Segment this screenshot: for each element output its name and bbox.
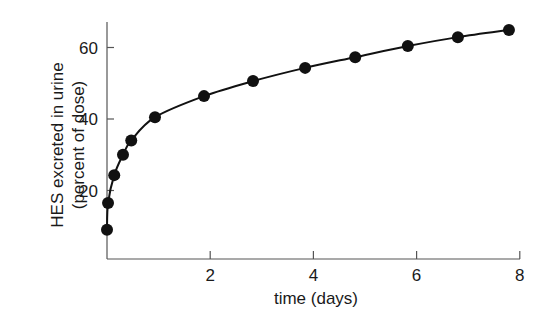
data-point (402, 40, 414, 52)
y-axis-title: HES excreted in urine (48, 62, 67, 227)
data-point (149, 111, 161, 123)
x-tick-label: 8 (515, 266, 524, 285)
y-axis-subtitle: (percent of dose) (69, 81, 88, 210)
data-point (247, 75, 259, 87)
data-point (452, 31, 464, 43)
data-point (108, 169, 120, 181)
data-point (503, 24, 515, 36)
x-tick-label: 2 (205, 266, 214, 285)
x-tick-label: 4 (309, 266, 318, 285)
data-point (101, 224, 113, 236)
x-tick-label: 6 (412, 266, 421, 285)
data-point (299, 62, 311, 74)
axes (107, 22, 520, 259)
data-points (101, 24, 515, 236)
data-point (125, 134, 137, 146)
data-point (102, 197, 114, 209)
x-axis-title: time (days) (274, 289, 358, 308)
x-ticks: 2468 (205, 251, 524, 285)
y-tick-label: 60 (79, 39, 98, 58)
data-point (349, 51, 361, 63)
data-point (117, 149, 129, 161)
chart: 204060 2468 time (days) HES excreted in … (0, 0, 543, 328)
data-curve (107, 30, 509, 230)
data-point (198, 90, 210, 102)
